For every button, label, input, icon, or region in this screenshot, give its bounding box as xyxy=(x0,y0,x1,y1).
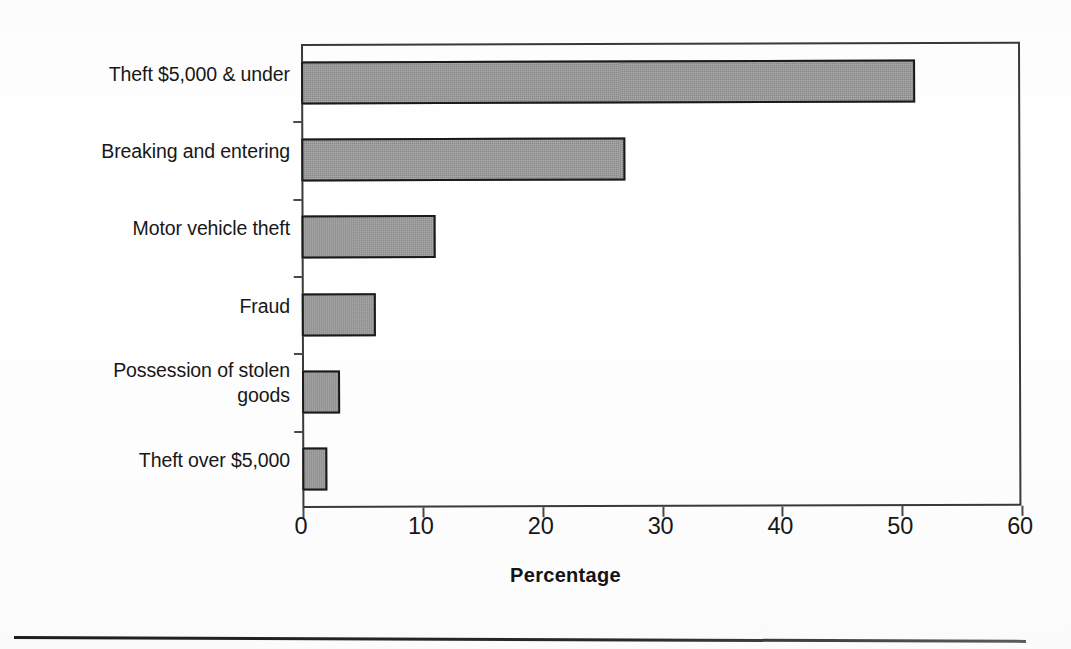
bar-row xyxy=(302,351,1021,431)
bar-fraud xyxy=(302,293,376,336)
bar-row xyxy=(301,196,1020,276)
x-axis-title-text: Percentage xyxy=(510,564,621,587)
x-tick-label-40: 40 xyxy=(745,513,815,540)
bar-motor-vehicle-theft xyxy=(302,215,436,258)
bar-breaking-and-entering xyxy=(301,137,625,181)
category-label-theft-5000-and-under: Theft $5,000 & under xyxy=(109,62,290,87)
page-divider-rule xyxy=(14,636,1026,643)
bar-chart-figure: Theft $5,000 & under Breaking and enteri… xyxy=(0,0,1071,649)
bar-row xyxy=(302,274,1021,354)
x-tick-label-50: 50 xyxy=(865,513,935,540)
bar-possession-of-stolen-goods xyxy=(302,370,340,413)
category-label-theft-over-5000: Theft over $5,000 xyxy=(139,448,290,473)
category-label-motor-vehicle-theft: Motor vehicle theft xyxy=(133,216,290,241)
bar-row xyxy=(301,42,1020,122)
x-tick-label-30: 30 xyxy=(626,513,696,540)
bar-theft-over-5000 xyxy=(302,448,327,491)
category-label-fraud: Fraud xyxy=(240,294,290,319)
bar-theft-5000-and-under xyxy=(301,59,915,104)
x-tick-label-60: 60 xyxy=(985,513,1055,540)
x-axis-title: Percentage xyxy=(0,564,1071,587)
bar-row xyxy=(302,428,1021,508)
x-tick-label-0: 0 xyxy=(266,513,336,540)
bars-layer xyxy=(301,42,1021,508)
category-label-breaking-and-entering: Breaking and entering xyxy=(101,139,290,164)
category-label-possession-of-stolen-goods: Possession of stolen goods xyxy=(113,358,290,408)
x-tick-label-10: 10 xyxy=(386,513,456,540)
bar-row xyxy=(301,119,1020,199)
x-tick-label-20: 20 xyxy=(506,513,576,540)
